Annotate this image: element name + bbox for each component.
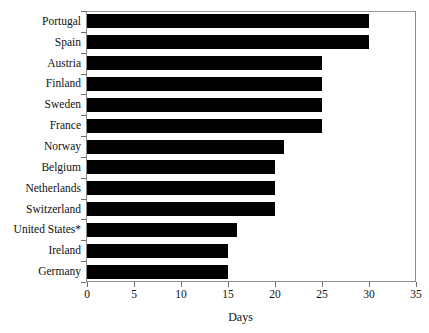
x-axis-title-text: Days — [228, 310, 253, 324]
x-axis-tick-label: 25 — [302, 288, 342, 300]
y-axis-label: Ireland — [0, 245, 81, 256]
x-axis-tick-label: 5 — [114, 288, 154, 300]
bar-chart: PortugalSpainAustriaFinlandSwedenFranceN… — [0, 0, 429, 333]
y-axis-label: Spain — [0, 37, 81, 48]
y-axis-tick — [81, 53, 86, 54]
bars-layer — [87, 11, 416, 282]
bar-germany — [87, 265, 228, 279]
y-axis-label: Sweden — [0, 99, 81, 110]
x-axis-tick — [181, 282, 182, 287]
bar-spain — [87, 35, 369, 49]
bar-norway — [87, 140, 284, 154]
x-axis-tick — [275, 282, 276, 287]
x-axis-title: Days — [0, 310, 429, 325]
y-axis-label: France — [0, 120, 81, 131]
y-axis-label: Portugal — [0, 16, 81, 27]
bar-finland — [87, 77, 322, 91]
y-axis-tick — [81, 32, 86, 33]
x-axis-tick — [416, 282, 417, 287]
y-axis-label: Finland — [0, 78, 81, 89]
y-axis-tick — [81, 74, 86, 75]
bar-ireland — [87, 244, 228, 258]
bar-sweden — [87, 98, 322, 112]
y-axis-tick — [81, 178, 86, 179]
x-axis-tick-label: 20 — [255, 288, 295, 300]
x-axis-tick — [134, 282, 135, 287]
y-axis-tick — [81, 282, 86, 283]
y-axis-tick — [81, 261, 86, 262]
y-axis-label: Germany — [0, 266, 81, 277]
y-axis-tick — [81, 136, 86, 137]
y-axis-label: Norway — [0, 141, 81, 152]
bar-austria — [87, 56, 322, 70]
y-axis-tick — [81, 240, 86, 241]
y-axis-tick — [81, 219, 86, 220]
x-axis-tick-label: 30 — [349, 288, 389, 300]
y-axis-label: Netherlands — [0, 183, 81, 194]
x-axis-tick-label: 35 — [396, 288, 429, 300]
y-axis-tick — [81, 11, 86, 12]
bar-netherlands — [87, 181, 275, 195]
y-axis-tick — [81, 115, 86, 116]
bar-switzerland — [87, 202, 275, 216]
x-axis-tick-label: 15 — [208, 288, 248, 300]
x-axis-tick-label: 10 — [161, 288, 201, 300]
y-axis-label: Austria — [0, 58, 81, 69]
bar-belgium — [87, 160, 275, 174]
y-axis-tick — [81, 199, 86, 200]
x-axis-tick-label: 0 — [67, 288, 107, 300]
y-axis-tick — [81, 94, 86, 95]
bar-portugal — [87, 14, 369, 28]
x-axis-tick — [322, 282, 323, 287]
y-axis-label: Belgium — [0, 162, 81, 173]
x-axis-tick — [228, 282, 229, 287]
y-axis-label: Switzerland — [0, 204, 81, 215]
bar-france — [87, 119, 322, 133]
bar-united-states — [87, 223, 237, 237]
x-axis-tick — [87, 282, 88, 287]
y-axis-tick — [81, 157, 86, 158]
y-axis-labels: PortugalSpainAustriaFinlandSwedenFranceN… — [0, 11, 81, 282]
x-axis-tick — [369, 282, 370, 287]
y-axis-label: United States* — [0, 224, 81, 235]
